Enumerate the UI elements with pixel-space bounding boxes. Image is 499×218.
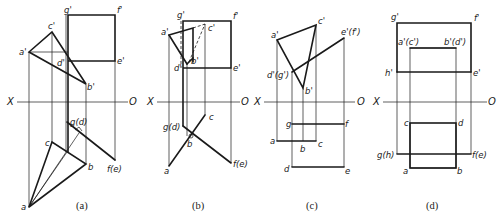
label-b: b bbox=[300, 144, 305, 154]
label-e-prime: e' bbox=[473, 68, 481, 78]
label-c: c bbox=[404, 118, 409, 128]
quad-h-projection bbox=[410, 123, 456, 168]
label-c-prime: c' bbox=[48, 21, 55, 31]
label-a: a bbox=[403, 166, 408, 176]
label-c-prime: c' bbox=[318, 16, 325, 26]
label-a-prime: a' bbox=[19, 47, 27, 57]
label-a-prime: a' bbox=[161, 27, 169, 37]
label-b: b bbox=[88, 162, 93, 172]
axis-label-x: X bbox=[253, 96, 262, 107]
label-f-prime: f' bbox=[474, 13, 479, 23]
projector-frame bbox=[410, 48, 456, 168]
label-e: e bbox=[345, 166, 350, 176]
axis-label-x: X bbox=[6, 96, 15, 107]
aux-line bbox=[29, 152, 67, 207]
label-c: c bbox=[45, 138, 50, 148]
label-d: d bbox=[284, 164, 290, 174]
caption-a: (a) bbox=[76, 200, 88, 212]
label-g-d: g(d) bbox=[70, 117, 87, 127]
label-g-h: g(h) bbox=[377, 150, 394, 160]
axis-label-o: O bbox=[241, 96, 249, 107]
caption-d: (d) bbox=[426, 200, 439, 212]
label-f-e: f(e) bbox=[107, 164, 122, 174]
label-g: g bbox=[286, 119, 292, 129]
label-b-prime: b' bbox=[87, 82, 95, 92]
plane-h-projection bbox=[67, 122, 115, 160]
label-e-prime: e' bbox=[117, 56, 125, 66]
axis-label-o: O bbox=[488, 96, 496, 107]
triangle-h-projection bbox=[29, 142, 86, 207]
label-b-prime: b' bbox=[191, 56, 199, 66]
label-a: a bbox=[21, 202, 26, 212]
panel-c: X O a' c' e'(f') d'(g') b' g f a b c d e… bbox=[253, 16, 365, 212]
label-f-prime: f' bbox=[233, 11, 238, 21]
label-e-prime: e' bbox=[233, 63, 241, 73]
axis-label-o: O bbox=[357, 96, 365, 107]
plane-v-projection bbox=[183, 21, 231, 126]
caption-c: (c) bbox=[306, 200, 318, 212]
panel-d: X O g' f' a'(c') b'(d') h' e' c d g(h) f… bbox=[372, 12, 496, 212]
label-c: c bbox=[209, 112, 214, 122]
label-b: b bbox=[457, 166, 462, 176]
label-a-c-prime: a'(c') bbox=[398, 37, 419, 47]
label-c-prime: c' bbox=[208, 23, 215, 33]
panel-b: X O g' f' a' c' b' d' e' c g(d) b a f(e)… bbox=[146, 10, 249, 212]
label-a: a bbox=[164, 166, 169, 176]
label-a-prime: a' bbox=[271, 30, 279, 40]
label-c: c bbox=[318, 139, 323, 149]
axis-label-x: X bbox=[372, 96, 381, 107]
label-d-g-prime: d'(g') bbox=[267, 70, 289, 80]
label-d: d bbox=[458, 118, 464, 128]
plane-v-projection bbox=[292, 38, 344, 72]
label-h-prime: h' bbox=[385, 68, 393, 78]
label-g-prime: g' bbox=[391, 12, 399, 22]
label-f-e: f(e) bbox=[472, 150, 487, 160]
label-d-prime: d' bbox=[174, 63, 182, 73]
projection-figure: X O g' f' c' a' d' e' b' g(d) c b f(e) a… bbox=[0, 0, 499, 218]
label-d-prime: d' bbox=[57, 58, 65, 68]
label-b-prime: b' bbox=[305, 86, 313, 96]
label-b-d-prime: b'(d') bbox=[444, 37, 466, 47]
label-g-prime: g' bbox=[177, 10, 185, 20]
label-f: f bbox=[345, 119, 350, 129]
label-f-prime: f' bbox=[117, 5, 122, 15]
label-g-prime: g' bbox=[64, 5, 72, 15]
axis-label-o: O bbox=[129, 96, 137, 107]
label-g-d: g(d) bbox=[163, 122, 180, 132]
panel-a: X O g' f' c' a' d' e' b' g(d) c b f(e) a… bbox=[6, 5, 137, 212]
label-e-f-prime: e'(f') bbox=[341, 27, 361, 37]
caption-b: (b) bbox=[192, 200, 205, 212]
label-a: a bbox=[270, 136, 275, 146]
label-b: b bbox=[187, 139, 192, 149]
label-f-e: f(e) bbox=[233, 159, 248, 169]
triangle-edge-ab bbox=[169, 35, 187, 64]
axis-label-x: X bbox=[146, 96, 155, 107]
